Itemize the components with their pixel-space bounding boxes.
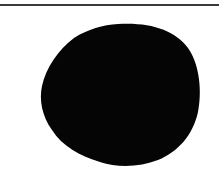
- black-blob-shape: [0, 0, 219, 184]
- blob-path: [41, 24, 200, 166]
